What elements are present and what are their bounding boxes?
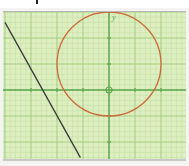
fine-grid — [3, 12, 186, 159]
graph-paper: y — [3, 11, 186, 161]
page-top-strip — [0, 0, 189, 8]
top-mark — [36, 0, 38, 4]
y-axis-label: y — [111, 13, 116, 22]
coordinate-plot: y — [3, 12, 186, 159]
